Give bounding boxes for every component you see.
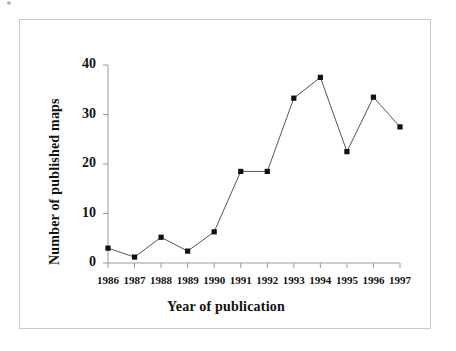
y-tick-label: 0: [66, 254, 96, 270]
data-point-marker: [371, 95, 376, 100]
x-tick-label: 1995: [336, 274, 358, 286]
x-tick-label: 1994: [309, 274, 331, 286]
y-tick-label: 20: [66, 155, 96, 171]
data-point-marker: [344, 149, 349, 154]
y-tick-label: 10: [66, 205, 96, 221]
x-tick-label: 1990: [203, 274, 225, 286]
data-point-marker: [238, 169, 243, 174]
data-point-marker: [265, 169, 270, 174]
y-tick-label: 30: [66, 106, 96, 122]
data-point-marker: [291, 96, 296, 101]
axis-lines: [108, 65, 400, 263]
x-tick-label: 1996: [362, 274, 384, 286]
x-tick-label: 1991: [230, 274, 252, 286]
plot-area: Number of published maps Year of publica…: [20, 20, 432, 330]
x-tick-label: 1987: [124, 274, 146, 286]
data-point-marker: [185, 249, 190, 254]
x-tick-label: 1986: [97, 274, 119, 286]
y-tick-label: 40: [66, 56, 96, 72]
x-tick-label: 1997: [389, 274, 411, 286]
x-axis-ticks: [108, 263, 400, 268]
data-point-markers: [105, 75, 402, 260]
data-point-marker: [158, 235, 163, 240]
x-tick-label: 1989: [177, 274, 199, 286]
x-tick-label: 1992: [256, 274, 278, 286]
y-axis-ticks: [103, 65, 108, 263]
scan-artifact-speck: [7, 1, 11, 5]
data-point-marker: [212, 229, 217, 234]
data-point-marker: [132, 254, 137, 259]
data-point-marker: [105, 246, 110, 251]
x-tick-label: 1993: [283, 274, 305, 286]
data-series-line: [108, 77, 400, 257]
figure-frame: Number of published maps Year of publica…: [19, 19, 431, 329]
data-point-marker: [318, 75, 323, 80]
x-tick-label: 1988: [150, 274, 172, 286]
data-point-marker: [397, 124, 402, 129]
